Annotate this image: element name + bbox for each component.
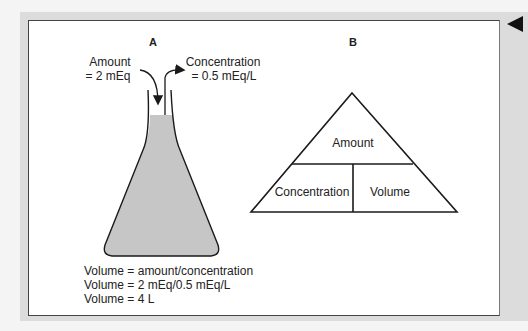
panel-b-label: B <box>349 36 357 48</box>
triangle-concentration: Concentration <box>275 185 350 199</box>
flask-liquid <box>104 115 218 256</box>
diagram: A Amount = 2 mEq Concentration = 0.5 mEq… <box>0 0 528 331</box>
triangle-amount: Amount <box>332 136 374 150</box>
arrow-in <box>140 70 158 103</box>
amount-label: Amount <box>89 55 131 69</box>
panel-a-label: A <box>149 36 157 48</box>
equation-line: Volume = 4 L <box>84 292 155 306</box>
amount-value: = 2 mEq <box>85 69 130 83</box>
concentration-label: Concentration <box>186 55 261 69</box>
equation-line: Volume = 2 mEq/0.5 mEq/L <box>84 278 231 292</box>
concentration-value: = 0.5 mEq/L <box>191 69 256 83</box>
equation-line: Volume = amount/concentration <box>84 264 253 278</box>
triangle-volume: Volume <box>370 185 410 199</box>
